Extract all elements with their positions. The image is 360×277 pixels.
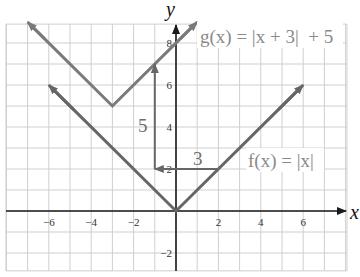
x-tick-label: 6 [300, 216, 306, 228]
x-tick-label: −4 [85, 216, 97, 228]
y-tick-label: 6 [167, 79, 173, 91]
horizontal-shift-label: 3 [193, 148, 203, 169]
vertical-shift-label: 5 [138, 115, 148, 136]
f-function-label: f(x) = |x| [248, 150, 314, 172]
x-axis-label: x [349, 201, 359, 223]
g-function-label: g(x) = |x + 3| + 5 [200, 26, 333, 48]
x-tick-label: 4 [258, 216, 264, 228]
y-tick-label: 4 [167, 121, 173, 133]
y-tick-label: −2 [160, 247, 172, 259]
x-tick-label: −2 [128, 216, 140, 228]
x-tick-label: −6 [43, 216, 55, 228]
x-tick-label: 2 [216, 216, 222, 228]
x-tick-labels: −6−4−2246 [43, 216, 307, 228]
y-axis-label: y [164, 0, 175, 21]
coordinate-graph: −6−4−2246 −22468 x y 3 5 g(x) = |x + 3| … [0, 0, 360, 277]
